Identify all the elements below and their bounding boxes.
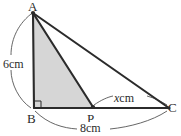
dimension-label-ab: 6cm <box>2 58 25 70</box>
dimension-label-pc-unit: cm <box>119 91 134 105</box>
dimension-arc-ab-lower <box>11 70 31 108</box>
dimension-arc-bc-left <box>35 111 77 129</box>
vertex-label-b: B <box>27 112 36 125</box>
vertex-label-c: C <box>168 101 177 114</box>
vertex-dot-p <box>91 105 95 109</box>
vertex-label-a: A <box>28 0 37 13</box>
dimension-arc-ab-upper <box>11 14 31 55</box>
dimension-arc-bc-right <box>110 111 167 129</box>
geometry-figure: A B P C 6cm 8cm xcm <box>0 0 181 136</box>
dimension-label-pc: xcm <box>113 92 135 104</box>
dimension-label-bc: 8cm <box>79 122 102 134</box>
segment-ab <box>33 13 34 108</box>
dimension-arc-pc-left <box>94 96 113 105</box>
